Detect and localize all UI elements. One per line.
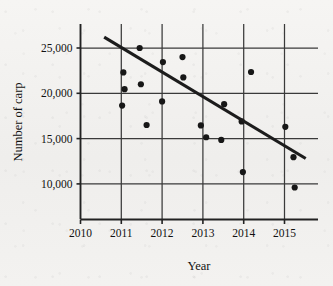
data-point <box>290 154 296 160</box>
data-point <box>120 69 126 75</box>
data-point <box>203 134 209 140</box>
data-point <box>159 98 165 104</box>
y-axis-title: Number of carp <box>11 82 25 161</box>
y-tick-label-15000: 15,000 <box>41 133 73 146</box>
data-point <box>218 137 224 143</box>
y-tick-label-10000: 10,000 <box>41 178 73 191</box>
data-point <box>144 122 150 128</box>
data-point <box>180 74 186 80</box>
data-point <box>240 169 246 175</box>
y-tick-label-20000: 20,000 <box>41 87 73 100</box>
data-point <box>292 184 298 190</box>
x-tick-label-2014: 2014 <box>232 227 255 239</box>
chart-canvas: 10,00015,00020,00025,000 201020112012201… <box>0 0 333 286</box>
x-tick-label-2010: 2010 <box>69 227 92 239</box>
data-point <box>282 124 288 130</box>
tick-marks-group <box>77 48 285 224</box>
vertical-gridlines-group <box>121 24 284 220</box>
x-axis-tick-labels-group: 201020112012201320142015 <box>69 227 296 239</box>
y-tick-label-25000: 25,000 <box>41 42 73 55</box>
x-tick-label-2011: 2011 <box>110 227 133 239</box>
y-axis-tick-labels-group: 10,00015,00020,00025,000 <box>41 42 73 191</box>
data-point <box>198 122 204 128</box>
scatter-data-points-group <box>119 45 298 191</box>
data-point <box>137 45 143 51</box>
x-tick-label-2013: 2013 <box>191 227 214 239</box>
data-point <box>179 54 185 60</box>
data-point <box>119 102 125 108</box>
carp-population-scatter-chart: 10,00015,00020,00025,000 201020112012201… <box>0 0 333 286</box>
data-point <box>121 86 127 92</box>
trend-line <box>104 37 306 158</box>
horizontal-gridlines-group <box>81 48 319 184</box>
data-point <box>138 81 144 87</box>
data-point <box>248 69 254 75</box>
data-point <box>160 59 166 65</box>
x-tick-label-2012: 2012 <box>151 227 174 239</box>
x-tick-label-2015: 2015 <box>273 227 296 239</box>
x-axis-title: Year <box>187 259 211 273</box>
